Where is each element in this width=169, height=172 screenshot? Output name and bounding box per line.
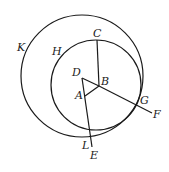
geometry-diagram: K H C D B A G F L E xyxy=(0,0,169,172)
label-d: D xyxy=(72,67,81,78)
label-c: C xyxy=(93,28,101,39)
label-h: H xyxy=(52,46,62,57)
label-a: A xyxy=(75,90,83,101)
label-f: F xyxy=(153,109,161,120)
circle-k xyxy=(21,15,143,137)
segment-cb xyxy=(97,40,99,86)
label-g: G xyxy=(140,95,149,106)
label-l: L xyxy=(82,140,89,151)
label-b: B xyxy=(101,76,109,87)
segment-ab xyxy=(85,86,99,96)
label-k: K xyxy=(17,42,25,53)
segment-db xyxy=(82,78,99,86)
label-e: E xyxy=(90,150,98,161)
